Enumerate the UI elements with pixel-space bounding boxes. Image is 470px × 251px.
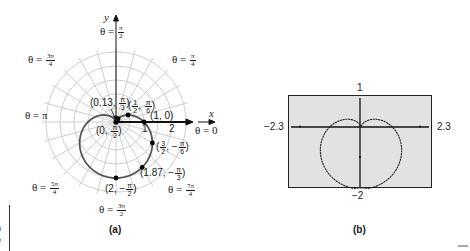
window-xmin: −2.3 (264, 122, 284, 132)
window-xmax: 2.3 (437, 122, 451, 132)
window-ymin: −2 (352, 191, 363, 201)
theta-pi-over-2-label: θ = π2 (100, 25, 124, 40)
label-text: (0, (96, 125, 110, 136)
label-text: ) (182, 167, 185, 178)
point-label-3-halves: (32, −π6) (156, 140, 189, 155)
theta-3pi-over-2-label: θ = 3π2 (99, 203, 126, 218)
tick-1: 1 (142, 124, 148, 134)
numerator: π (145, 99, 152, 107)
label-text: ) (118, 125, 121, 136)
denominator: 2 (118, 33, 124, 40)
margin-fragment: n (0, 224, 1, 233)
point-label-1.87: (1.87, −π3) (140, 166, 185, 181)
fraction: 7π4 (186, 183, 195, 198)
theta-prefix: θ = (100, 25, 114, 37)
label-text: ) (133, 183, 136, 194)
denominator: 2 (127, 190, 133, 197)
fraction: π2 (118, 25, 124, 40)
calculator-window (288, 95, 432, 188)
fraction: π4 (190, 53, 196, 68)
theta-prefix: θ = (28, 53, 42, 65)
fraction: 3π2 (117, 203, 126, 218)
denominator: 2 (119, 211, 125, 218)
label-text: (2, − (105, 183, 125, 194)
denominator: 2 (112, 132, 118, 139)
label-text: (0.13, (90, 97, 118, 108)
denominator: 3 (120, 104, 126, 111)
calculator-plot (289, 96, 433, 189)
denominator: 4 (188, 191, 194, 198)
theta-5pi-over-4-label: θ = 5π4 (32, 181, 59, 196)
caption-b: (b) (353, 224, 366, 235)
fraction: 5π4 (50, 181, 59, 196)
label-text: (1.87, − (140, 167, 174, 178)
theta-prefix: θ = (168, 183, 182, 195)
numerator: π (179, 140, 186, 148)
theta-prefix: θ = (99, 203, 113, 215)
label-text: ( (128, 100, 131, 111)
margin-fragment: e (0, 236, 1, 245)
caption-a: (a) (109, 224, 121, 235)
theta-7pi-over-4-label: θ = 7π4 (168, 183, 195, 198)
point-label-1-0: (1, 0) (150, 111, 173, 121)
denominator: 4 (52, 189, 58, 196)
data-point (114, 176, 119, 181)
point-label-2: (2, −π2) (105, 182, 136, 197)
fraction: π6 (179, 140, 186, 155)
theta-0-label: θ = 0 (195, 125, 217, 136)
window-ymax: 1 (357, 83, 363, 93)
fraction: 3π4 (46, 53, 55, 68)
theta-pi-over-4-label: θ = π4 (172, 53, 196, 68)
theta-prefix: θ = (172, 53, 186, 65)
point-label-origin: (0, π2) (96, 124, 122, 139)
label-text: , (138, 100, 144, 111)
x-axis-label: x (209, 108, 214, 119)
theta-3pi-over-4-label: θ = 3π4 (28, 53, 55, 68)
denominator: 4 (48, 61, 54, 68)
label-text: ( (156, 141, 159, 152)
y-axis-label: y (104, 12, 109, 23)
theta-pi-label: θ = π (25, 110, 48, 121)
label-text: , − (166, 141, 177, 152)
denominator: 6 (179, 148, 185, 155)
data-point (150, 141, 155, 146)
tick-2: 2 (169, 124, 175, 134)
denominator: 3 (176, 174, 182, 181)
label-text: ) (186, 141, 189, 152)
denominator: 4 (190, 61, 196, 68)
point-label-0.13-pi-over-3: (0.13, π3) (90, 96, 130, 111)
theta-prefix: θ = (32, 181, 46, 193)
